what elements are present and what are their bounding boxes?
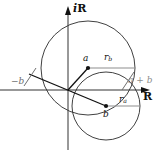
radius-ra-subscript: a [123, 97, 127, 104]
complex-plane-figure: iR R a b rb ra −b a + b [0, 0, 162, 156]
point-a-label: a [83, 54, 88, 63]
radius-rb-subscript: b [108, 55, 112, 62]
tick-minus-b [24, 68, 36, 86]
minus-b-label: −b [11, 77, 24, 86]
point-b-dot [104, 104, 108, 108]
imaginary-axis-label: iR [73, 3, 86, 14]
real-axis-label: R [143, 91, 152, 102]
point-b-label: b [103, 110, 109, 119]
radius-rb-label: rb [104, 53, 112, 62]
point-a-dot [86, 66, 90, 70]
radius-ra-label: ra [119, 95, 127, 104]
a-plus-b-label: a + b [128, 76, 152, 85]
